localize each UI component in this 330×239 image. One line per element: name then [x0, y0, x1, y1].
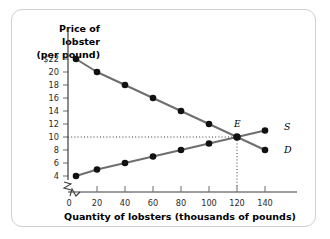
y-tick-label-10: 10: [49, 132, 59, 142]
x-tick-label-0: 0: [66, 198, 71, 208]
x-axis-title: Quantity of lobsters (thousands of pound…: [64, 211, 296, 222]
equilibrium-point-marker: [233, 133, 241, 141]
y-tick-label-18: 18: [49, 80, 59, 90]
y-axis-title-line-1: Price of: [59, 23, 101, 34]
x-tick-label-20: 20: [92, 198, 102, 208]
y-tick-label-8: 8: [54, 145, 59, 155]
y-tick-label-14: 14: [49, 106, 59, 116]
y-tick-label-6: 6: [54, 158, 59, 168]
x-tick-label-60: 60: [148, 198, 158, 208]
x-tick-label-80: 80: [176, 198, 186, 208]
y-tick-label-20: 20: [49, 67, 59, 77]
demand-curve-label: D: [283, 144, 292, 155]
y-axis-break-mark: [64, 182, 71, 190]
y-tick-label-4: 4: [54, 171, 59, 181]
x-tick-label-100: 100: [201, 198, 217, 208]
x-tick-label-140: 140: [257, 198, 273, 208]
x-tick-label-120: 120: [229, 198, 245, 208]
figure-panel: Price of lobster (per pound) $22 20 18 1…: [11, 9, 316, 227]
x-tick-label-40: 40: [120, 198, 130, 208]
y-tick-label-16: 16: [49, 93, 59, 103]
x-axis-tick-marks: [97, 186, 265, 192]
equilibrium-point-label: E: [233, 119, 241, 129]
y-axis-tick-marks: [63, 59, 68, 176]
supply-demand-chart: Price of lobster (per pound) $22 20 18 1…: [12, 10, 315, 226]
y-tick-label-12: 12: [49, 119, 59, 129]
supply-curve-label: S: [284, 121, 291, 132]
y-tick-label-22: $22: [43, 54, 59, 64]
